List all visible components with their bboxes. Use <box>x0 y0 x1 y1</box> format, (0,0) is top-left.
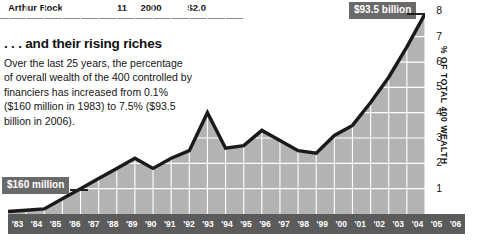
x-tick-label: '01 <box>351 218 370 230</box>
table-row: Arthur Rock 11 2000 $2.0 <box>0 0 244 19</box>
x-tick-label: '87 <box>84 218 103 230</box>
page-title: . . . and their rising riches <box>4 36 162 51</box>
table-cell-year: 2000 <box>136 1 166 14</box>
x-tick-label: '04 <box>408 218 427 230</box>
x-tick-label: '03 <box>389 218 408 230</box>
x-tick-label: '05 <box>427 218 446 230</box>
y-tick-label: 1 <box>428 183 442 193</box>
x-tick-label: '89 <box>122 218 141 230</box>
x-tick-label: '93 <box>198 218 217 230</box>
x-tick-label: '00 <box>332 218 351 230</box>
x-tick-label: '88 <box>103 218 122 230</box>
table-cell-name: Arthur Rock <box>8 1 63 14</box>
x-tick-label: '84 <box>27 218 46 230</box>
x-tick-label: '99 <box>313 218 332 230</box>
x-tick-label: '96 <box>256 218 275 230</box>
x-tick-label: '85 <box>46 218 65 230</box>
x-tick-label: '02 <box>370 218 389 230</box>
infographic-root: Arthur Rock 11 2000 $2.0 12345678 % OF T… <box>0 0 479 242</box>
x-tick-label: '94 <box>217 218 236 230</box>
x-tick-label: '90 <box>141 218 160 230</box>
callout-high-value: $93.5 billion <box>349 2 416 19</box>
callout-low-value: $160 million <box>2 177 69 194</box>
x-tick-label: '95 <box>237 218 256 230</box>
y-axis-title: % OF TOTAL 400 WEALTH <box>439 46 449 165</box>
y-tick-label: 7 <box>428 31 442 41</box>
callout-high-leader <box>407 13 425 15</box>
x-tick-label: '98 <box>294 218 313 230</box>
x-tick-label: '83 <box>8 218 27 230</box>
x-axis-band: '83'84'85'86'87'88'89'90'91'92'93'94'95'… <box>8 214 465 234</box>
deck-text: Over the last 25 years, the percentage o… <box>4 56 194 128</box>
y-tick-label: 8 <box>428 5 442 15</box>
x-tick-label: '86 <box>65 218 84 230</box>
table-cell-value: $2.0 <box>176 1 206 14</box>
x-tick-label: '97 <box>275 218 294 230</box>
table-cell-rank: 11 <box>107 1 127 14</box>
callout-low-leader <box>70 189 88 191</box>
x-tick-label: '92 <box>179 218 198 230</box>
x-tick-label: '06 <box>446 218 465 230</box>
x-tick-label: '91 <box>160 218 179 230</box>
